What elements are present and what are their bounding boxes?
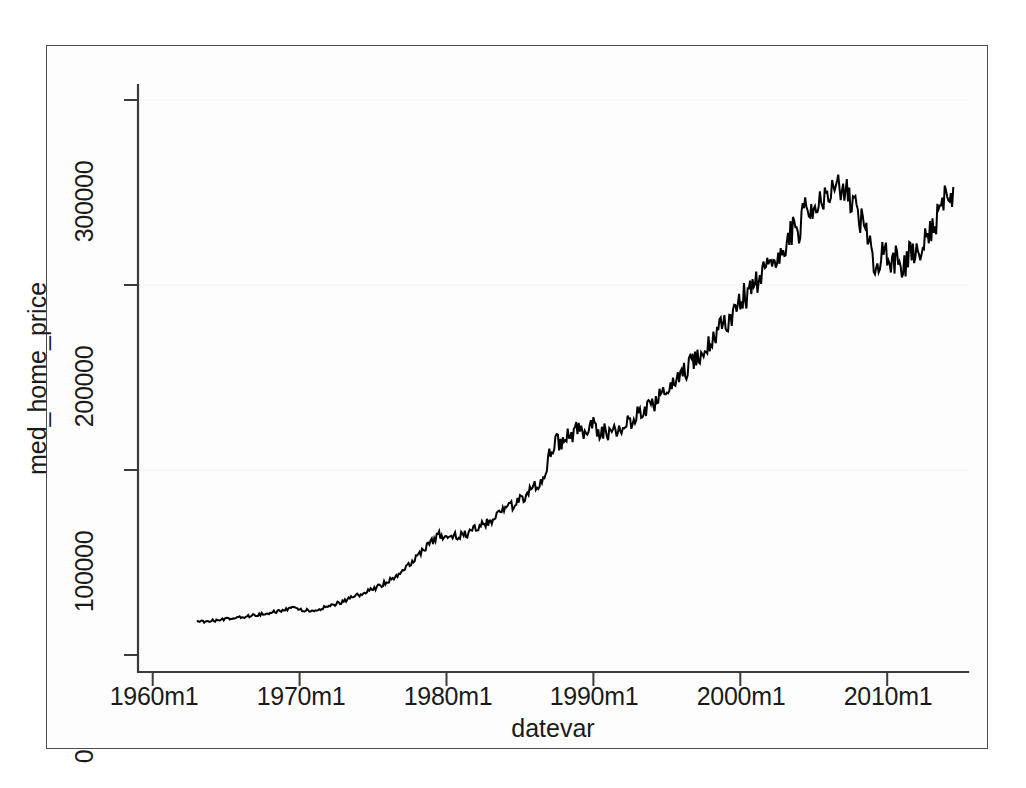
gridlines [138,100,968,470]
xtick-label-2010m1: 2010m1 [808,682,968,711]
chart-figure: 300000 200000 100000 0 med_home_price 19… [0,0,1026,788]
ytick-label-100000: 100000 [70,472,99,672]
x-axis-title: datevar [403,714,703,743]
xtick-label-1980m1: 1980m1 [368,682,528,711]
plot-canvas [0,0,1026,788]
xtick-label-1960m1: 1960m1 [74,682,234,711]
series-line-med-home-price [197,175,954,623]
xtick-label-1990m1: 1990m1 [514,682,674,711]
ytick-label-300000: 300000 [70,102,99,302]
y-axis-ticks [124,100,138,655]
axis-lines [138,85,968,672]
ytick-label-200000: 200000 [70,287,99,487]
ytick-label-0: 0 [70,657,99,788]
y-axis-title: med_home_price [23,249,52,509]
xtick-label-1970m1: 1970m1 [221,682,381,711]
xtick-label-2000m1: 2000m1 [661,682,821,711]
